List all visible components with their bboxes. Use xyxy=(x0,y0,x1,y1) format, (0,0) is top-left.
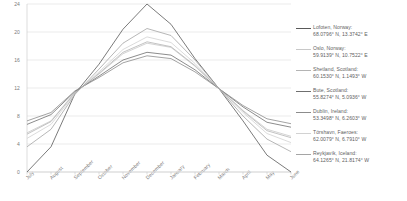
legend-item[interactable]: Tórshavn, Faeroes:62.0079° N, 6.7910° W xyxy=(296,129,407,150)
legend-label: Shetland, Scotland:60.1530° N, 1.1493° W xyxy=(313,66,366,80)
legend-color-swatch xyxy=(296,70,311,71)
legend-location-name: Lofoten, Norway: xyxy=(313,24,368,31)
legend-label: Bute, Scotland:55.8274° N, 5.0936° W xyxy=(313,87,366,101)
legend-label: Dublin, Ireland:53.3498° N, 6.2603° W xyxy=(313,108,366,122)
legend-label: Oslo, Norway:59.9139° N, 10.7522° E xyxy=(313,45,368,59)
gridlines xyxy=(27,4,291,172)
legend-location-name: Dublin, Ireland: xyxy=(313,108,366,115)
legend-color-swatch xyxy=(296,91,311,92)
legend-color-swatch xyxy=(296,49,311,50)
legend-item[interactable]: Oslo, Norway:59.9139° N, 10.7522° E xyxy=(296,45,407,66)
legend-label: Lofoten, Norway:68.0796° N, 13.3742° E xyxy=(313,24,368,38)
legend-item[interactable]: Bute, Scotland:55.8274° N, 5.0936° W xyxy=(296,87,407,108)
darkness-hours-line-chart: 04812162024 JulyAugustSeptemberOctoberNo… xyxy=(0,0,407,201)
series-line xyxy=(27,37,291,143)
legend-label: Reykjavík, Iceland:64.1265° N, 21.8174° … xyxy=(313,150,369,164)
legend-location-coordinates: 60.1530° N, 1.1493° W xyxy=(313,73,366,80)
legend: Lofoten, Norway:68.0796° N, 13.3742° EOs… xyxy=(296,24,407,171)
x-tick-marks xyxy=(27,172,291,175)
legend-item[interactable]: Lofoten, Norway:68.0796° N, 13.3742° E xyxy=(296,24,407,45)
legend-location-coordinates: 59.9139° N, 10.7522° E xyxy=(313,52,368,59)
legend-location-coordinates: 55.8274° N, 5.0936° W xyxy=(313,94,366,101)
legend-location-coordinates: 64.1265° N, 21.8174° W xyxy=(313,157,369,164)
legend-item[interactable]: Shetland, Scotland:60.1530° N, 1.1493° W xyxy=(296,66,407,87)
legend-location-name: Reykjavík, Iceland: xyxy=(313,150,369,157)
legend-location-coordinates: 62.0079° N, 6.7910° W xyxy=(313,136,366,143)
legend-location-coordinates: 53.3498° N, 6.2603° W xyxy=(313,115,366,122)
legend-color-swatch xyxy=(296,28,311,29)
legend-label: Tórshavn, Faeroes:62.0079° N, 6.7910° W xyxy=(313,129,366,143)
legend-color-swatch xyxy=(296,154,311,155)
legend-item[interactable]: Dublin, Ireland:53.3498° N, 6.2603° W xyxy=(296,108,407,129)
legend-location-name: Oslo, Norway: xyxy=(313,45,368,52)
legend-item[interactable]: Reykjavík, Iceland:64.1265° N, 21.8174° … xyxy=(296,150,407,171)
legend-location-name: Tórshavn, Faeroes: xyxy=(313,129,366,136)
legend-location-name: Bute, Scotland: xyxy=(313,87,366,94)
series-line xyxy=(27,56,291,124)
legend-location-coordinates: 68.0796° N, 13.3742° E xyxy=(313,31,368,38)
series-line xyxy=(27,42,291,138)
legend-color-swatch xyxy=(296,112,311,113)
legend-color-swatch xyxy=(296,133,311,134)
legend-location-name: Shetland, Scotland: xyxy=(313,66,366,73)
